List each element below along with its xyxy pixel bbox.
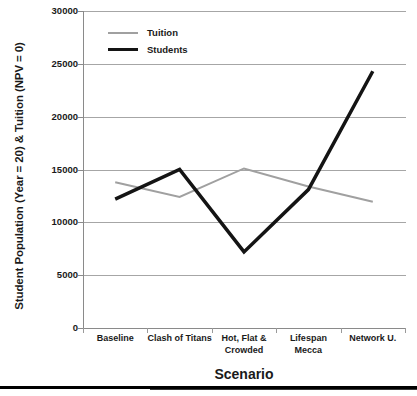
x-axis-title: Scenario: [83, 366, 405, 382]
y-tickmark-30000: [78, 11, 83, 12]
y-tickmark-25000: [78, 64, 83, 65]
x-tick-label-line: Clash of Titans: [147, 333, 211, 343]
x-tick-label-line: Baseline: [97, 333, 134, 343]
legend-item-students[interactable]: Students: [108, 41, 188, 58]
x-tick-label-line: Network U.: [349, 333, 396, 343]
footer-rule-secondary: [150, 389, 417, 390]
legend-label-students: Students: [147, 44, 188, 55]
x-tick-label-line: Hot, Flat &: [221, 333, 266, 343]
legend-label-tuition: Tuition: [147, 27, 178, 38]
x-tick-label-0: Baseline: [83, 333, 147, 345]
x-tick-label-4: Network U.: [341, 333, 405, 345]
legend-swatch-icon-students: [108, 48, 138, 51]
x-tick-label-line: Crowded: [225, 345, 264, 355]
x-tick-label-2: Hot, Flat &Crowded: [212, 333, 276, 356]
x-tickmark-5: [405, 328, 406, 333]
x-tickmark-0: [83, 328, 84, 333]
series-line-students: [115, 71, 373, 252]
x-tickmark-1: [147, 328, 148, 333]
y-tickmark-20000: [78, 117, 83, 118]
chart-container: Student Population (Year = 20) & Tuition…: [0, 0, 417, 396]
y-tickmark-10000: [78, 222, 83, 223]
x-tickmark-3: [276, 328, 277, 333]
chart-legend: TuitionStudents: [108, 24, 188, 58]
x-tickmark-4: [341, 328, 342, 333]
x-tick-label-line: Lifespan Mecca: [290, 333, 327, 355]
y-tickmark-15000: [78, 170, 83, 171]
x-tick-label-1: Clash of Titans: [147, 333, 211, 345]
x-axis-tick-labels: BaselineClash of TitansHot, Flat &Crowde…: [83, 333, 405, 367]
x-tick-label-3: Lifespan Mecca: [276, 333, 340, 356]
x-tickmark-2: [212, 328, 213, 333]
legend-swatch-icon-tuition: [108, 32, 138, 34]
series-line-tuition: [115, 168, 373, 201]
y-tickmark-5000: [78, 275, 83, 276]
legend-item-tuition[interactable]: Tuition: [108, 24, 188, 41]
